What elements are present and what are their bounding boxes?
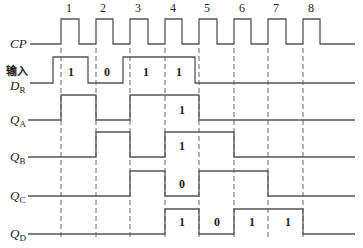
- signal-qd: QD 1 0 1 1: [10, 209, 355, 243]
- label-qb: QB: [10, 149, 25, 166]
- clock-number-4: 4: [170, 1, 176, 15]
- label-qd: QD: [10, 226, 26, 243]
- clock-number-5: 5: [204, 1, 210, 15]
- label-dr: DR: [9, 78, 25, 95]
- waveform-qb: [28, 132, 355, 157]
- waveform-dr: [30, 57, 355, 83]
- qd-bit-2: 0: [214, 215, 220, 229]
- dr-bit-4: 1: [176, 65, 182, 79]
- waveform-qd: [28, 209, 355, 234]
- waveform-qc: [28, 171, 355, 196]
- clock-number-1: 1: [66, 1, 72, 15]
- signal-cp: CP: [10, 19, 355, 51]
- label-cp: CP: [10, 36, 27, 51]
- waveform-cp: [30, 19, 355, 44]
- clock-number-7: 7: [273, 1, 279, 15]
- clock-number-6: 6: [239, 1, 245, 15]
- dr-bit-2: 0: [104, 65, 110, 79]
- label-qa: QA: [10, 112, 26, 129]
- qb-bit-4: 1: [179, 139, 185, 153]
- qc-bit-4: 0: [179, 177, 185, 191]
- clock-numbers: 1 2 3 4 5 6 7 8: [66, 1, 314, 15]
- qd-bit-4: 1: [285, 215, 291, 229]
- label-qc: QC: [10, 188, 25, 205]
- qa-bit-4: 1: [179, 103, 185, 117]
- dr-bit-1: 1: [68, 65, 74, 79]
- waveform-qa: [28, 95, 355, 120]
- clock-number-8: 8: [308, 1, 314, 15]
- qd-bit-1: 1: [179, 215, 185, 229]
- timing-diagram: 1 2 3 4 5 6 7 8 CP 输入 DR 1 0 1 1 QA 1: [0, 0, 363, 248]
- clock-number-2: 2: [100, 1, 106, 15]
- clock-number-3: 3: [135, 1, 141, 15]
- dr-bit-3: 1: [143, 65, 149, 79]
- qd-bit-3: 1: [249, 215, 255, 229]
- label-input: 输入: [6, 64, 28, 78]
